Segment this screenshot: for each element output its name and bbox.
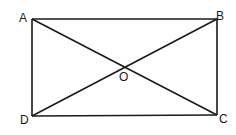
vertex-label-a: A <box>19 11 27 25</box>
intersection-label-o: O <box>119 70 128 84</box>
vertex-label-d: D <box>20 113 29 127</box>
side-cd <box>32 115 217 116</box>
geometry-diagram: A B C D O <box>0 0 236 135</box>
vertex-label-b: B <box>216 9 224 23</box>
vertex-label-c: C <box>219 112 228 126</box>
